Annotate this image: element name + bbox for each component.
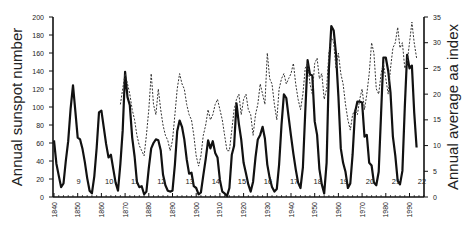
cycle-label: 14 <box>212 177 220 186</box>
x-tick-label: 1970 <box>359 202 366 218</box>
cycle-label: 15 <box>238 177 246 186</box>
right-tick-label: 15 <box>433 116 441 123</box>
cycle-label: 19 <box>340 177 348 186</box>
left-axis-title: Annual sunspot number <box>8 28 25 186</box>
cycle-label: 11 <box>131 177 139 186</box>
x-tick-label: 1840 <box>51 202 58 218</box>
cycle-label: 13 <box>186 177 194 186</box>
right-tick-label: 20 <box>433 91 441 98</box>
plot-series <box>54 22 417 196</box>
x-tick-label: 1890 <box>169 202 176 218</box>
left-tick-label: 140 <box>32 68 44 75</box>
x-tick-label: 1850 <box>74 202 81 218</box>
cycle-label: 17 <box>290 177 298 186</box>
x-tick-label: 1900 <box>193 202 200 218</box>
x-tick-label: 1870 <box>122 202 129 218</box>
cycle-label: 10 <box>105 177 113 186</box>
right-tick-label: 30 <box>433 39 441 46</box>
right-axis-ticks: 05101520253035 <box>424 14 441 201</box>
left-tick-label: 100 <box>32 104 44 111</box>
right-axis-title: Annual average aa index <box>444 24 461 190</box>
left-tick-label: 180 <box>32 32 44 39</box>
x-tick-label: 1910 <box>216 202 223 218</box>
right-tick-label: 5 <box>433 168 437 175</box>
x-tick-label: 1950 <box>311 202 318 218</box>
cycle-label: 18 <box>314 177 322 186</box>
x-tick-label: 1920 <box>240 202 247 218</box>
cycle-label: 16 <box>264 177 272 186</box>
x-tick-label: 1990 <box>406 202 413 218</box>
right-tick-label: 35 <box>433 14 441 21</box>
right-tick-label: 0 <box>433 194 437 201</box>
cycle-label: 22 <box>418 177 426 186</box>
left-tick-label: 40 <box>36 158 44 165</box>
left-tick-label: 80 <box>36 122 44 129</box>
left-tick-label: 0 <box>40 194 44 201</box>
x-tick-label: 1930 <box>264 202 271 218</box>
left-tick-label: 20 <box>36 176 44 183</box>
left-tick-label: 120 <box>32 86 44 93</box>
x-tick-label: 1980 <box>382 202 389 218</box>
sunspot-number-line <box>54 26 417 196</box>
cycle-label: 20 <box>366 177 374 186</box>
left-axis-ticks: 020406080100120140160180200 <box>32 14 53 201</box>
cycle-label: 21 <box>392 177 400 186</box>
right-tick-label: 25 <box>433 65 441 72</box>
left-tick-label: 160 <box>32 50 44 57</box>
left-tick-label: 200 <box>32 14 44 21</box>
x-tick-label: 1940 <box>288 202 295 218</box>
x-tick-label: 1860 <box>98 202 105 218</box>
aa-index-line <box>120 22 416 166</box>
cycle-label: 9 <box>77 177 81 186</box>
right-tick-label: 10 <box>433 142 441 149</box>
sunspot-aa-chart: 020406080100120140160180200 051015202530… <box>0 0 471 228</box>
left-tick-label: 60 <box>36 140 44 147</box>
cycle-label: 12 <box>157 177 165 186</box>
x-tick-label: 1880 <box>145 202 152 218</box>
x-tick-label: 1960 <box>335 202 342 218</box>
